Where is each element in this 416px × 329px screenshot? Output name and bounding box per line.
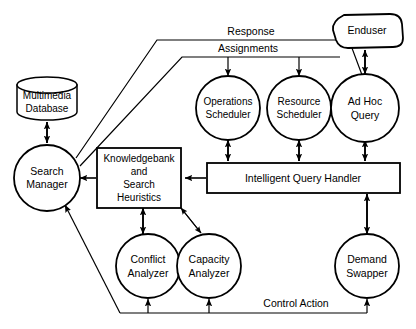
node-resource-scheduler[interactable]: Resource Scheduler [267,76,331,140]
ad-hoc-query-label-line2: Query [351,109,380,121]
node-demand-swapper[interactable]: Demand Swapper [335,234,399,298]
node-capacity-analyzer[interactable]: Capacity Analyzer [177,234,241,298]
capacity-analyzer-label-line2: Analyzer [189,267,230,279]
edge-label-response: Response [219,25,283,39]
demand-swapper-label-line2: Swapper [346,267,388,279]
knowledgebank-label-line2: and [131,166,148,177]
demand-swapper-label-line1: Demand [347,253,387,265]
ad-hoc-query-label-line1: Ad Hoc [348,95,382,107]
edge-label-control-action: Control Action [251,297,342,311]
search-manager-label-line1: Search [30,165,63,177]
conflict-analyzer-label-line2: Analyzer [128,267,169,279]
conflict-analyzer-label-line1: Conflict [130,253,165,265]
search-manager-label-line2: Manager [26,178,68,190]
assignments-label: Assignments [218,42,278,54]
node-multimedia-database[interactable]: Multimedia Database [17,77,77,120]
resource-scheduler-label-line1: Resource [278,96,321,107]
knowledgebank-label-line4: Heuristics [117,192,161,203]
node-conflict-analyzer[interactable]: Conflict Analyzer [116,234,180,298]
node-knowledgebank[interactable]: Knowledgebank and Search Heuristics [97,148,181,208]
knowledgebank-label-line1: Knowledgebank [103,153,175,164]
edge-knowledgebank-capacityanalyzer [181,208,201,233]
response-label: Response [227,25,274,37]
control-action-label: Control Action [263,297,329,309]
intelligent-query-handler-label: Intelligent Query Handler [245,172,362,184]
node-operations-scheduler[interactable]: Operations Scheduler [196,76,260,140]
node-search-manager[interactable]: Search Manager [14,145,80,211]
architecture-diagram: Multimedia Database Search Manager Knowl… [0,0,416,329]
operations-scheduler-label-line2: Scheduler [205,109,251,120]
node-enduser[interactable]: Enduser [333,14,403,48]
enduser-label: Enduser [347,24,387,36]
multimedia-database-label-line2: Database [26,103,69,114]
edge-label-assignments: Assignments [208,42,288,56]
operations-scheduler-label-line1: Operations [204,96,253,107]
resource-scheduler-label-line2: Scheduler [276,109,322,120]
multimedia-database-label-line1: Multimedia [23,90,72,101]
capacity-analyzer-label-line1: Capacity [189,253,231,265]
knowledgebank-label-line3: Search [123,179,155,190]
node-intelligent-query-handler[interactable]: Intelligent Query Handler [207,163,400,193]
node-ad-hoc-query[interactable]: Ad Hoc Query [331,74,399,142]
diagram-canvas: Multimedia Database Search Manager Knowl… [0,0,416,329]
